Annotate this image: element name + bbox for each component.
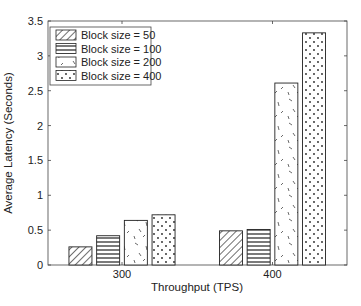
legend: Block size = 50Block size = 100Block siz…	[50, 27, 161, 85]
bar-300-100	[97, 236, 120, 265]
y-tick-label: 1	[37, 189, 43, 201]
bar-400-200	[275, 83, 298, 265]
y-axis-label: Average Latency (Seconds)	[2, 72, 14, 214]
legend-swatch	[56, 71, 76, 81]
x-tick-label: 300	[113, 268, 131, 280]
y-tick-label: 2.5	[28, 85, 43, 97]
y-tick-label: 0	[37, 259, 43, 271]
bar-400-50	[219, 231, 242, 265]
legend-swatch	[56, 30, 76, 40]
x-axis-label: Throughput (TPS)	[151, 281, 243, 293]
bar-300-50	[69, 247, 92, 265]
bar-chart: 00.511.522.533.5 300400 Throughput (TPS)…	[0, 0, 361, 306]
bar-300-400	[152, 215, 175, 265]
legend-label: Block size = 50	[81, 29, 155, 41]
y-tick-label: 0.5	[28, 224, 43, 236]
bar-400-100	[247, 229, 270, 265]
bar-300-200	[124, 220, 147, 265]
legend-label: Block size = 200	[81, 56, 161, 68]
y-tick-label: 3.5	[28, 15, 43, 27]
x-tick-label: 400	[263, 268, 281, 280]
legend-label: Block size = 400	[81, 70, 161, 82]
y-tick-label: 3	[37, 50, 43, 62]
legend-swatch	[56, 57, 76, 67]
bar-400-400	[303, 33, 326, 265]
y-tick-label: 2	[37, 120, 43, 132]
legend-label: Block size = 100	[81, 43, 161, 55]
y-tick-label: 1.5	[28, 154, 43, 166]
legend-swatch	[56, 44, 76, 54]
